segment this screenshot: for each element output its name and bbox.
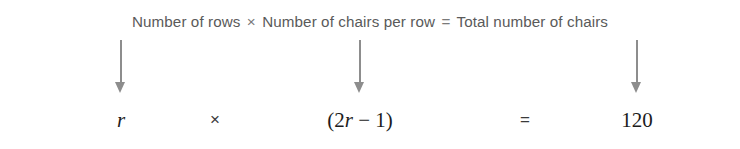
arrow-shaft [359, 40, 361, 84]
arrow-head [631, 82, 641, 93]
arrow-head [115, 82, 125, 93]
variable-r: r [345, 108, 353, 132]
expression-suffix: − 1) [353, 108, 393, 132]
multiplication-sign-icon: × [245, 13, 258, 30]
symbol-equals-operator: = [520, 106, 530, 134]
word-result-total-chairs: Total number of chairs [456, 13, 608, 30]
down-arrow-icon-chairs [353, 40, 367, 94]
arrow-shaft [120, 40, 122, 84]
word-factor-chairs-per-row: Number of chairs per row [262, 13, 435, 30]
symbol-chairs-expression: (2r − 1) [327, 106, 393, 134]
equals-sign-icon: = [439, 13, 452, 30]
variable-r: r [117, 108, 125, 132]
equation-figure: Number of rows × Number of chairs per ro… [0, 0, 740, 149]
symbol-multiply-operator: × [210, 106, 220, 134]
symbol-total-value: 120 [621, 106, 653, 134]
expression-prefix: (2 [327, 108, 345, 132]
down-arrow-icon-total [630, 40, 644, 94]
down-arrow-icon-rows [114, 40, 128, 94]
word-equation-line: Number of rows × Number of chairs per ro… [0, 12, 740, 32]
arrow-head [354, 82, 364, 93]
arrow-shaft [636, 40, 638, 84]
symbol-rows-variable: r [117, 106, 125, 134]
word-factor-rows: Number of rows [132, 13, 241, 30]
